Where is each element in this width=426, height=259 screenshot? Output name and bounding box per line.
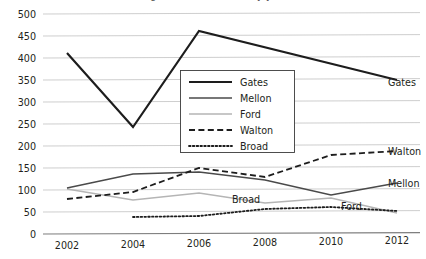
x-tick-2004: 2004 — [121, 239, 145, 250]
x-axis-tick-labels: 2002 2004 2006 2008 2010 2012 — [55, 235, 409, 251]
gridline-400 — [43, 57, 420, 58]
series-line-mellon — [67, 172, 397, 195]
gridline-450 — [43, 35, 420, 36]
y-tick-500: 500 — [18, 9, 36, 20]
legend-label-broad: Broad — [240, 141, 268, 152]
line-chart: Assets 2013 (in billions) of largest US … — [0, 0, 426, 259]
x-tick-2012: 2012 — [385, 235, 409, 246]
end-label-mellon: Mellon — [388, 178, 419, 189]
y-tick-300: 300 — [18, 97, 36, 108]
chart-legend: Gates Mellon Ford Walton Broad — [181, 71, 295, 153]
end-label-broad: Broad — [232, 194, 260, 205]
y-tick-450: 450 — [18, 31, 36, 42]
y-tick-200: 200 — [18, 141, 36, 152]
end-label-ford: Ford — [341, 201, 362, 212]
legend-label-walton: Walton — [240, 125, 273, 136]
end-label-gates: Gates — [388, 77, 416, 88]
y-axis-tick-labels: 500 450 400 350 300 250 200 150 100 50 0 — [18, 9, 36, 240]
gridline-500 — [43, 13, 420, 14]
y-tick-0: 0 — [30, 229, 36, 240]
y-tick-250: 250 — [18, 119, 36, 130]
y-tick-400: 400 — [18, 53, 36, 64]
chart-canvas: 500 450 400 350 300 250 200 150 100 50 0… — [0, 0, 426, 259]
x-axis-line — [43, 233, 420, 234]
y-tick-150: 150 — [18, 163, 36, 174]
chart-title: Assets 2013 (in billions) of largest US … — [6, 0, 420, 2]
end-label-walton: Walton — [388, 146, 421, 157]
legend-label-ford: Ford — [240, 109, 261, 120]
gridline-150 — [43, 167, 420, 168]
legend-label-mellon: Mellon — [240, 93, 271, 104]
y-tick-350: 350 — [18, 75, 36, 86]
x-tick-2010: 2010 — [319, 236, 343, 247]
x-tick-2006: 2006 — [187, 238, 211, 249]
x-tick-2008: 2008 — [253, 237, 277, 248]
x-tick-2002: 2002 — [55, 240, 79, 251]
y-tick-50: 50 — [24, 207, 36, 218]
legend-label-gates: Gates — [240, 77, 268, 88]
y-tick-100: 100 — [18, 185, 36, 196]
